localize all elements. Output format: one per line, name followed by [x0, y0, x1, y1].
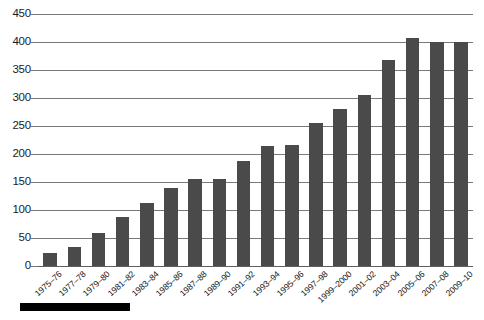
bar [43, 253, 57, 266]
y-axis-tick-label: 350 [0, 64, 31, 76]
y-axis-tick-label: 250 [0, 120, 31, 132]
bar [333, 109, 347, 266]
bar [164, 188, 178, 266]
bar [68, 247, 82, 266]
y-axis-tick-label: 150 [0, 176, 31, 188]
y-axis-tick-label: 0 [0, 260, 31, 272]
y-axis-tick [31, 14, 38, 15]
bar [309, 123, 323, 266]
y-axis-tick [31, 98, 38, 99]
bar [116, 217, 130, 266]
bar [285, 145, 299, 266]
bar-chart: 050100150200250300350400450 1975–761977–… [0, 0, 484, 320]
y-axis-tick-labels: 050100150200250300350400450 [0, 14, 31, 266]
y-axis-tick [31, 42, 38, 43]
bar [382, 60, 396, 266]
bar [406, 38, 420, 266]
y-axis-tick [31, 154, 38, 155]
bar [261, 146, 275, 266]
bars [38, 14, 473, 266]
y-axis-tick-label: 300 [0, 92, 31, 104]
bar [92, 233, 106, 266]
bar [188, 179, 202, 266]
y-axis-tick [31, 266, 38, 267]
bar [237, 161, 251, 266]
bar [358, 95, 372, 266]
y-axis-tick [31, 182, 38, 183]
y-axis-tick-label: 200 [0, 148, 31, 160]
y-axis-tick [31, 238, 38, 239]
y-axis-tick-label: 100 [0, 204, 31, 216]
bar [430, 42, 444, 266]
bar [140, 203, 154, 266]
y-axis-tick-label: 50 [0, 232, 31, 244]
source-rule [20, 303, 130, 311]
y-axis-tick-label: 450 [0, 8, 31, 20]
plot-area [38, 14, 473, 266]
y-axis-tick [31, 70, 38, 71]
y-axis-tick [31, 126, 38, 127]
y-axis-tick [31, 210, 38, 211]
bar [213, 179, 227, 266]
y-axis-tick-label: 400 [0, 36, 31, 48]
bar [454, 42, 468, 266]
